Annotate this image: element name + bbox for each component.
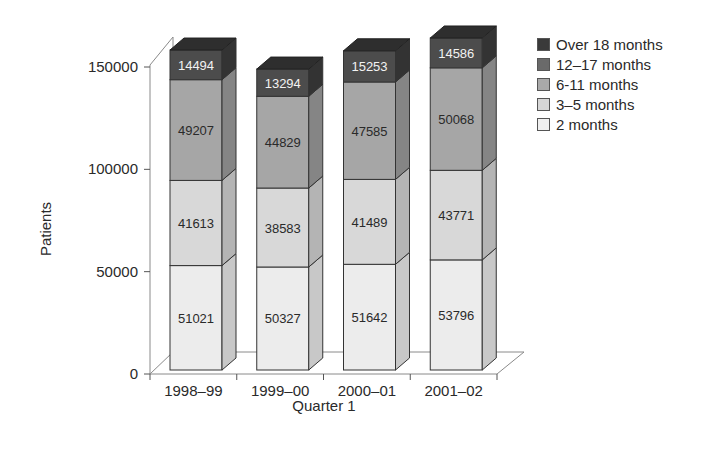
x-tick-label: 2001–02: [424, 382, 482, 399]
legend-item: 2 months: [537, 114, 663, 134]
segment-value-label: 14494: [178, 58, 214, 73]
legend-item: 3–5 months: [537, 94, 663, 114]
legend-swatch-icon: [537, 118, 550, 131]
y-tick-label: 0: [130, 365, 138, 382]
segment-value-label: 41613: [178, 216, 214, 231]
bar-stack: 51642414894758515253: [344, 39, 410, 370]
y-axis-title: Patients: [37, 202, 54, 256]
x-axis-title: Quarter 1: [292, 397, 355, 414]
legend-item: 6-11 months: [537, 74, 663, 94]
legend-swatch-icon: [537, 38, 550, 51]
segment-value-label: 41489: [351, 215, 387, 230]
segment-value-label: 38583: [265, 221, 301, 236]
legend-label: 12–17 months: [556, 56, 651, 73]
segment-value-label: 44829: [265, 135, 301, 150]
legend-label: Over 18 months: [556, 36, 663, 53]
segment-value-label: 50068: [438, 112, 474, 127]
segment-value-label: 13294: [265, 76, 301, 91]
legend-item: 12–17 months: [537, 54, 663, 74]
bar-stack: 53796437715006814586: [430, 26, 496, 370]
y-tick-label: 150000: [88, 58, 138, 75]
legend-label: 6-11 months: [556, 76, 638, 93]
chart-legend: Over 18 months12–17 months6-11 months3–5…: [537, 34, 663, 134]
y-tick-label: 100000: [88, 160, 138, 177]
segment-value-label: 47585: [351, 124, 387, 139]
legend-swatch-icon: [537, 78, 550, 91]
segment-value-label: 51021: [178, 311, 214, 326]
y-tick-label: 50000: [96, 263, 138, 280]
segment-value-label: 14586: [438, 46, 474, 61]
segment-value-label: 51642: [351, 310, 387, 325]
legend-label: 2 months: [556, 116, 618, 133]
x-tick-label: 1998–99: [164, 382, 222, 399]
legend-swatch-icon: [537, 98, 550, 111]
segment-value-label: 43771: [438, 208, 474, 223]
legend-item: Over 18 months: [537, 34, 663, 54]
segment-value-label: 15253: [351, 59, 387, 74]
legend-swatch-icon: [537, 58, 550, 71]
chart-bars: 5102141613492071449450327385834482913294…: [170, 26, 496, 370]
segment-value-label: 53796: [438, 308, 474, 323]
bar-stack: 51021416134920714494: [170, 38, 236, 370]
segment-value-label: 49207: [178, 123, 214, 138]
bar-stack: 50327385834482913294: [257, 57, 323, 370]
y-axis-tick-labels: 050000100000150000: [88, 58, 138, 382]
legend-label: 3–5 months: [556, 96, 634, 113]
segment-value-label: 50327: [265, 311, 301, 326]
